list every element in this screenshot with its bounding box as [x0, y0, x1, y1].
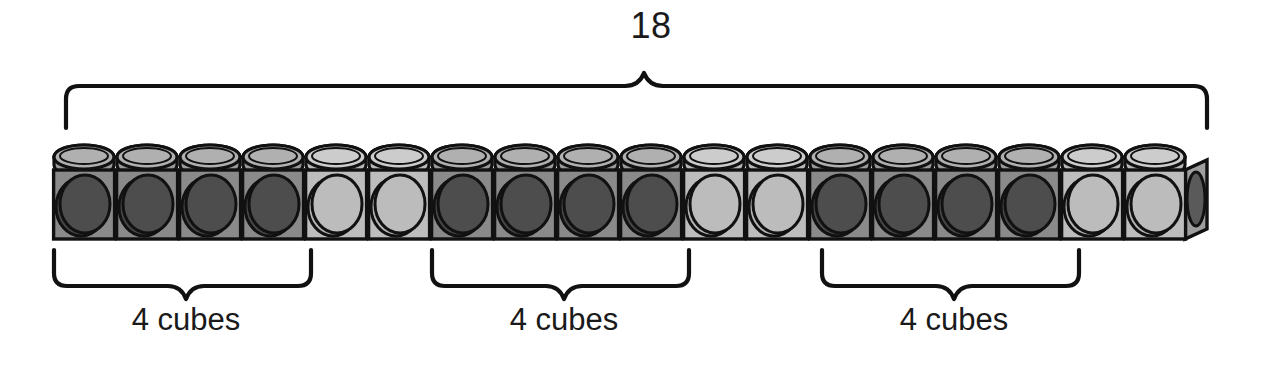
bottom-brace-3	[822, 250, 1079, 299]
end-socket-icon	[1187, 172, 1205, 226]
cube-14[interactable]	[873, 145, 934, 239]
cube-2[interactable]	[117, 145, 178, 239]
cube-8[interactable]	[495, 145, 556, 239]
cube-7[interactable]	[432, 145, 493, 239]
cube-3[interactable]	[180, 145, 241, 239]
group-label-2: 4 cubes	[464, 303, 664, 337]
cube-4[interactable]	[243, 145, 304, 239]
cube-18[interactable]	[1125, 145, 1207, 239]
cube-5[interactable]	[306, 145, 367, 239]
cube-train	[54, 145, 1207, 239]
cube-11[interactable]	[684, 145, 745, 239]
top-brace	[66, 73, 1207, 128]
group-label-1: 4 cubes	[86, 303, 286, 337]
diagram-canvas: 18	[0, 0, 1288, 367]
cube-10[interactable]	[621, 145, 682, 239]
bottom-brace-1	[54, 250, 311, 299]
cube-13[interactable]	[810, 145, 871, 239]
bottom-brace-2	[432, 250, 689, 299]
cube-17[interactable]	[1062, 145, 1123, 239]
cube-16[interactable]	[999, 145, 1060, 239]
cube-15[interactable]	[936, 145, 997, 239]
group-label-3: 4 cubes	[854, 303, 1054, 337]
cube-1[interactable]	[54, 145, 115, 239]
cube-12[interactable]	[747, 145, 808, 239]
cube-6[interactable]	[369, 145, 430, 239]
cube-9[interactable]	[558, 145, 619, 239]
